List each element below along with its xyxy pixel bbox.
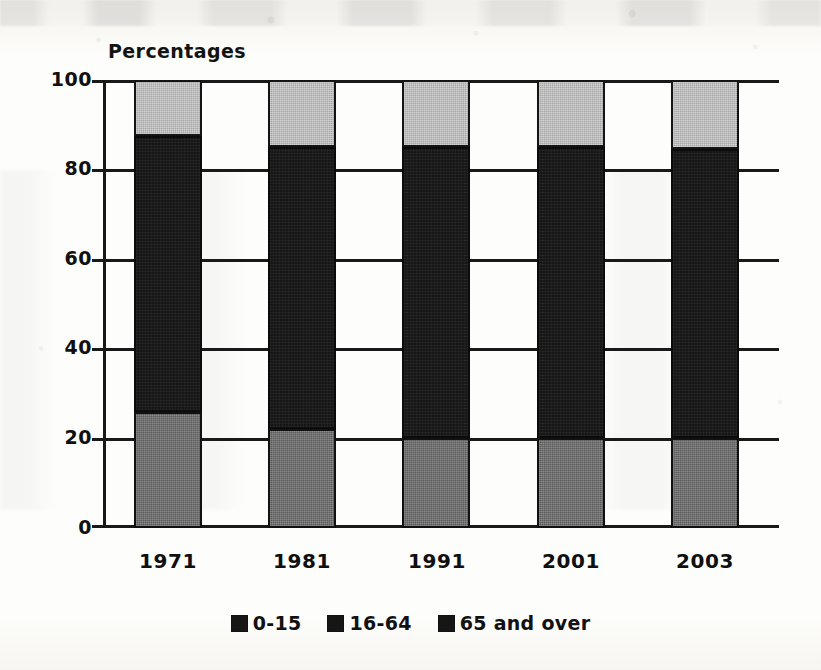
y-axis-tick-60 xyxy=(92,259,103,262)
y-axis-tick-40 xyxy=(92,348,103,351)
y-tick-label-20: 20 xyxy=(20,426,92,448)
legend-item-0-15[interactable]: 0-15 xyxy=(231,612,302,634)
y-axis-tick-0 xyxy=(92,525,103,528)
legend-swatch-icon-65-and-over xyxy=(438,615,455,632)
y-tick-label-0: 0 xyxy=(20,516,92,538)
bar-segment-16-64 xyxy=(537,147,605,438)
legend-swatch-icon-16-64 xyxy=(327,615,344,632)
x-tick-label-1971: 1971 xyxy=(108,549,228,573)
y-axis-line xyxy=(103,80,106,528)
y-axis-tick-80 xyxy=(92,169,103,172)
y-axis-tick-20 xyxy=(92,438,103,441)
legend-label-65-and-over: 65 and over xyxy=(460,612,591,634)
y-tick-label-40: 40 xyxy=(20,336,92,358)
x-tick-label-1991: 1991 xyxy=(377,549,497,573)
bar-segment-0-15 xyxy=(134,412,202,528)
y-axis-unit-label: Percentages xyxy=(108,40,246,62)
legend-label-0-15: 0-15 xyxy=(253,612,302,634)
bar-2003[interactable] xyxy=(671,80,739,528)
legend-swatch-icon-0-15 xyxy=(231,615,248,632)
bar-1991[interactable] xyxy=(402,80,470,528)
bar-segment-0-15 xyxy=(268,429,336,528)
bar-segment-0-15 xyxy=(671,438,739,528)
bar-segment-65-and-over xyxy=(268,80,336,147)
y-tick-label-100: 100 xyxy=(20,68,92,90)
bar-segment-16-64 xyxy=(134,136,202,412)
bar-segment-65-and-over xyxy=(537,80,605,147)
bar-segment-16-64 xyxy=(671,149,739,438)
bar-segment-0-15 xyxy=(402,438,470,528)
bar-segment-65-and-over xyxy=(134,80,202,136)
bar-segment-16-64 xyxy=(268,147,336,429)
y-tick-label-60: 60 xyxy=(20,247,92,269)
bar-segment-65-and-over xyxy=(671,80,739,149)
stacked-bar-chart: Percentages 100 80 60 40 20 0 xyxy=(0,0,821,670)
x-tick-label-2003: 2003 xyxy=(645,549,765,573)
x-tick-label-2001: 2001 xyxy=(511,549,631,573)
y-axis-tick-100 xyxy=(92,80,103,83)
legend-item-16-64[interactable]: 16-64 xyxy=(327,612,411,634)
legend-label-16-64: 16-64 xyxy=(349,612,411,634)
bar-segment-65-and-over xyxy=(402,80,470,147)
chart-legend: 0-15 16-64 65 and over xyxy=(0,612,821,634)
bar-2001[interactable] xyxy=(537,80,605,528)
y-tick-label-80: 80 xyxy=(20,157,92,179)
bar-segment-0-15 xyxy=(537,438,605,528)
plot-area xyxy=(103,80,779,528)
x-tick-label-1981: 1981 xyxy=(242,549,362,573)
legend-item-65-and-over[interactable]: 65 and over xyxy=(438,612,591,634)
bar-1981[interactable] xyxy=(268,80,336,528)
bar-segment-16-64 xyxy=(402,147,470,438)
bar-1971[interactable] xyxy=(134,80,202,528)
